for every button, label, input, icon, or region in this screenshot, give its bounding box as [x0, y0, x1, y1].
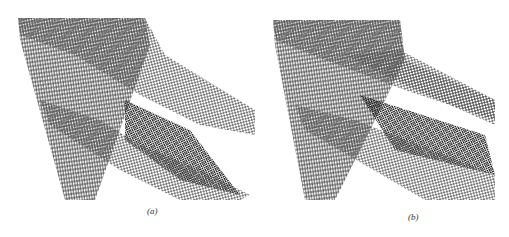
panel-b: (b) [255, 0, 509, 237]
mesh-diagram-a [0, 0, 255, 237]
panel-a: (a) [0, 0, 255, 237]
caption-b: (b) [408, 212, 419, 222]
caption-a: (a) [147, 206, 158, 216]
mesh-diagram-b [255, 0, 509, 237]
